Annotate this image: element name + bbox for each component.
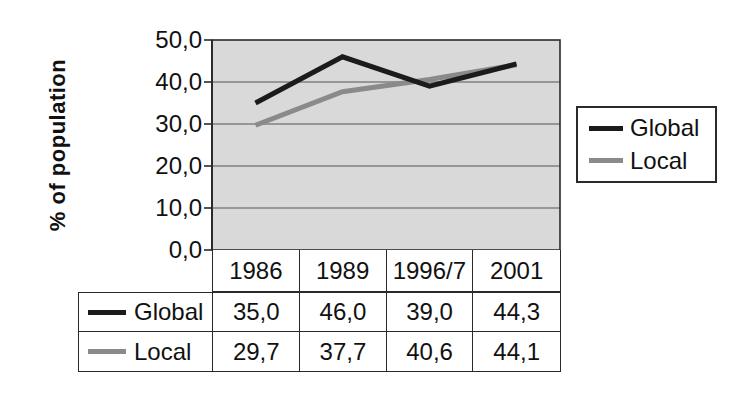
category-header-row: 198619891996/72001: [212, 250, 561, 292]
year-header-cell: 1986: [213, 250, 300, 291]
y-tick-label: 40,0: [140, 70, 202, 94]
year-header-cell: 1989: [300, 250, 387, 291]
line-chart-figure: % of population 0,010,020,030,040,050,0 …: [0, 0, 748, 393]
table-value-cell: 46,0: [300, 293, 387, 331]
global-line-swatch-icon: [88, 310, 126, 315]
local-line-swatch-icon: [88, 349, 126, 354]
y-tick-label: 20,0: [140, 154, 202, 178]
year-header-cell: 2001: [473, 250, 560, 291]
series-label-cell: Global: [79, 293, 213, 331]
series-name: Local: [134, 338, 191, 366]
y-tick-label: 30,0: [140, 112, 202, 136]
legend: Global Local: [576, 106, 717, 183]
y-tick-label: 50,0: [140, 28, 202, 52]
y-tick-label: 10,0: [140, 196, 202, 220]
table-value-cell: 37,7: [300, 332, 387, 371]
legend-item-local: Local: [589, 149, 715, 173]
legend-label-global: Global: [630, 116, 699, 140]
table-row-global: Global35,046,039,044,3: [78, 292, 561, 332]
legend-item-global: Global: [589, 116, 715, 140]
table-value-cell: 44,1: [473, 332, 560, 371]
year-header-cell: 1996/7: [387, 250, 474, 291]
y-tick-label: 0,0: [140, 238, 202, 262]
table-row-local: Local29,737,740,644,1: [78, 332, 561, 372]
local-line-swatch-icon: [589, 158, 623, 163]
table-value-cell: 44,3: [473, 293, 560, 331]
table-value-cell: 29,7: [213, 332, 300, 371]
series-label-cell: Local: [79, 332, 213, 371]
table-value-cell: 40,6: [387, 332, 474, 371]
global-line-swatch-icon: [589, 126, 623, 131]
legend-label-local: Local: [630, 149, 687, 173]
table-value-cell: 35,0: [213, 293, 300, 331]
table-value-cell: 39,0: [387, 293, 474, 331]
series-name: Global: [134, 298, 203, 326]
